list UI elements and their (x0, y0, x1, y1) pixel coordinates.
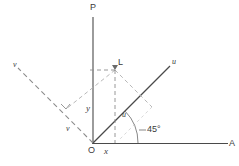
v-axis-line (18, 68, 93, 143)
label-angle-45: 45° (147, 125, 161, 134)
label-origin: O (88, 146, 95, 155)
label-x-coordinate: x (104, 147, 108, 156)
label-point-l: L (118, 58, 123, 67)
label-axis-p: P (90, 3, 96, 12)
dashed-l-to-u-axis (115, 70, 152, 107)
label-axis-a: A (229, 139, 235, 148)
label-v-axis-end: v (13, 61, 17, 69)
angle-arc-45 (125, 111, 138, 143)
label-v-component: v (66, 125, 70, 133)
label-y-coordinate: y (86, 104, 90, 113)
label-u-component: u (122, 111, 126, 119)
label-u-axis-end: u (172, 58, 176, 66)
dashed-l-to-v-axis (66, 70, 115, 109)
geometry-figure: P A O x y L u u v v 45° (0, 0, 239, 166)
diagram-canvas (0, 0, 239, 166)
